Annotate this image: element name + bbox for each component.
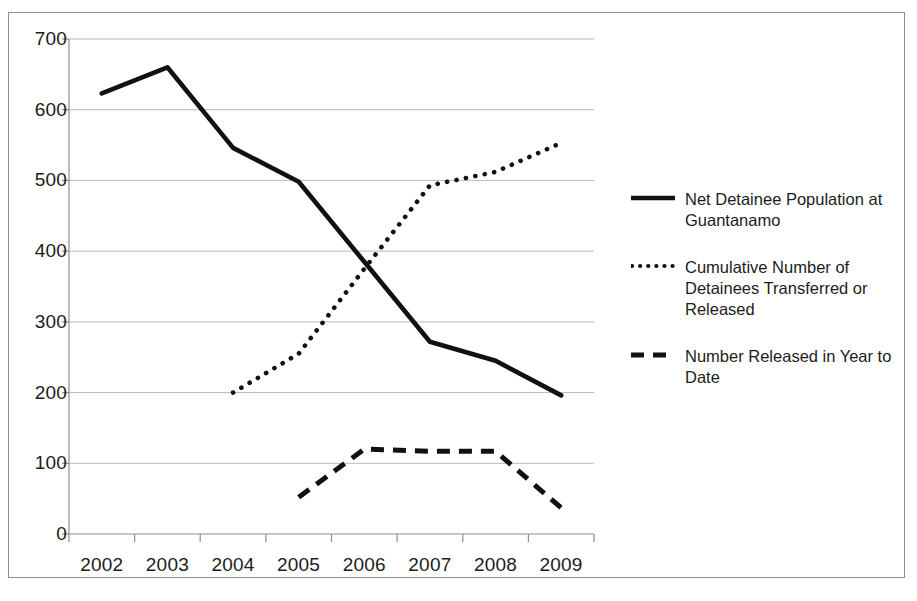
legend-swatch-dotted-line-icon: [631, 259, 675, 277]
legend-label-cumulative-transferred-released: Cumulative Number of Detainees Transferr…: [685, 257, 901, 320]
x-axis-label-2003: 2003: [132, 555, 202, 574]
x-axis-label-2004: 2004: [198, 555, 268, 574]
legend-label-number-released-year-to-date: Number Released in Year to Date: [685, 346, 901, 388]
x-axis-label-2007: 2007: [395, 555, 465, 574]
x-axis-label-2008: 2008: [461, 555, 531, 574]
legend-entry-cumulative-transferred-released[interactable]: Cumulative Number of Detainees Transferr…: [631, 257, 903, 320]
chart-frame: 700 600 500 400 300 200 100 0 2002 2003 …: [8, 12, 905, 578]
x-axis-label-2002: 2002: [67, 555, 137, 574]
chart-legend: Net Detainee Population at Guantanamo Cu…: [631, 189, 903, 414]
legend-entry-number-released-year-to-date[interactable]: Number Released in Year to Date: [631, 346, 903, 388]
x-axis-label-2009: 2009: [526, 555, 596, 574]
chart-plot-area: 700 600 500 400 300 200 100 0 2002 2003 …: [9, 13, 906, 579]
x-axis-label-2005: 2005: [264, 555, 334, 574]
legend-entry-net-detainee-population[interactable]: Net Detainee Population at Guantanamo: [631, 189, 903, 231]
legend-label-net-detainee-population: Net Detainee Population at Guantanamo: [685, 189, 901, 231]
legend-swatch-dashed-line-icon: [631, 348, 675, 366]
x-axis-label-2006: 2006: [329, 555, 399, 574]
legend-swatch-solid-line-icon: [631, 191, 675, 209]
